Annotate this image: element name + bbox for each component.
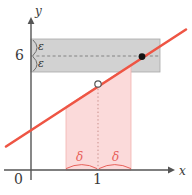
delta-left-label: δ	[76, 151, 83, 163]
plot-canvas	[0, 0, 192, 195]
y-axis-arrow-icon	[28, 17, 35, 24]
y-tick-label-6: 6	[15, 48, 24, 62]
delta-right-label: δ	[112, 151, 119, 163]
x-axis-arrow-icon	[168, 167, 175, 174]
x-tick-label-1: 1	[93, 172, 102, 186]
open-circle-marker	[95, 81, 101, 87]
epsilon-upper-label: ε	[38, 41, 44, 52]
y-axis-label: y	[35, 5, 42, 17]
filled-dot-marker	[139, 53, 146, 60]
origin-label: 0	[14, 172, 23, 186]
epsilon-lower-label: ε	[38, 58, 44, 69]
limit-diagram-figure: y x 6 0 1 ε ε δ δ	[0, 0, 192, 195]
x-axis-label: x	[179, 165, 186, 177]
